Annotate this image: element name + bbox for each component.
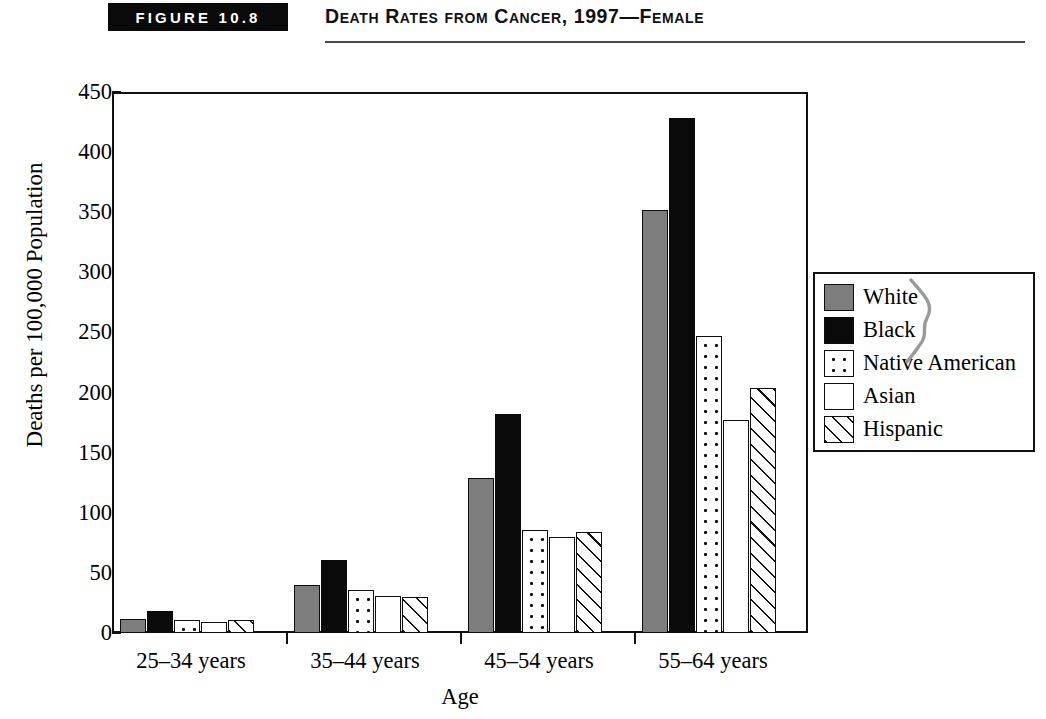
footnote <box>6 710 706 719</box>
x-tick-mark <box>634 633 636 644</box>
legend-swatch <box>824 416 854 443</box>
bar <box>642 210 669 633</box>
bar <box>348 590 375 633</box>
bar <box>576 532 603 633</box>
title-divider <box>325 41 1025 43</box>
legend-swatch <box>824 284 854 311</box>
legend-swatch <box>824 350 854 377</box>
bar <box>402 597 429 633</box>
y-tick-label: 300 <box>52 261 112 284</box>
bar-series-container <box>112 92 808 633</box>
bar <box>375 596 402 633</box>
y-tick-label: 250 <box>52 321 112 344</box>
bar <box>522 530 549 633</box>
bar <box>669 118 696 633</box>
figure-number-badge: FIGURE 10.8 <box>108 3 288 31</box>
bar <box>201 622 228 633</box>
bar <box>174 620 201 633</box>
x-tick-label: 35–44 years <box>310 648 419 674</box>
x-tick-mark <box>286 633 288 644</box>
y-tick-label: 50 <box>52 562 112 585</box>
bar <box>321 560 348 633</box>
y-tick-label: 450 <box>52 81 112 104</box>
bar <box>294 585 321 633</box>
bar <box>228 620 255 633</box>
bar <box>120 619 147 633</box>
bar <box>696 336 723 633</box>
legend-swatch <box>824 317 854 344</box>
bar <box>549 537 576 633</box>
y-tick-label: 0 <box>52 622 112 645</box>
x-tick-label: 45–54 years <box>484 648 593 674</box>
bar <box>495 414 522 633</box>
chart-area: Deaths per 100,000 Population 0501001502… <box>0 62 1046 719</box>
y-tick-label: 100 <box>52 502 112 525</box>
legend-item: Asian <box>824 380 916 412</box>
legend-label: Asian <box>863 385 916 408</box>
legend-item: White <box>824 281 918 313</box>
bar <box>147 611 174 633</box>
figure-header: FIGURE 10.8 Death Rates from Cancer, 199… <box>0 0 1046 62</box>
x-axis-tick-marks <box>112 633 808 645</box>
x-tick-label: 25–34 years <box>136 648 245 674</box>
bar <box>468 478 495 633</box>
x-tick-label: 55–64 years <box>658 648 767 674</box>
legend-item: Black <box>824 314 915 346</box>
x-axis-tick-labels: 25–34 years35–44 years45–54 years55–64 y… <box>112 648 808 680</box>
legend-swatch <box>824 383 854 410</box>
y-tick-label: 400 <box>52 141 112 164</box>
x-axis-title: Age <box>112 684 808 710</box>
page-title: Death Rates from Cancer, 1997—Female <box>325 5 704 31</box>
y-tick-label: 200 <box>52 381 112 404</box>
legend-item: Hispanic <box>824 413 943 445</box>
bar <box>723 420 750 633</box>
y-tick-label: 150 <box>52 441 112 464</box>
bar <box>750 388 777 633</box>
y-tick-label: 350 <box>52 201 112 224</box>
x-tick-mark <box>460 633 462 644</box>
pen-squiggle-icon <box>905 278 945 364</box>
y-axis-tick-labels: 050100150200250300350400450 <box>42 92 112 633</box>
legend-label: Hispanic <box>863 418 943 441</box>
